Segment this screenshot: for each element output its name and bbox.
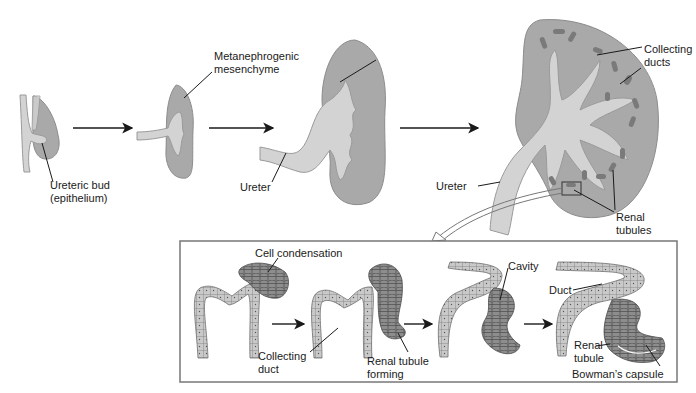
label-ureter-stage3: Ureter (240, 181, 271, 193)
leader-ureter-stage4 (478, 182, 500, 186)
label-renal-tubule-forming-1: Renal tubule (367, 355, 429, 367)
label-ducts-text: ducts (644, 56, 671, 68)
label-renal-tubule-1: Renal (574, 339, 603, 351)
label-renal-tubule-2: tubule (574, 352, 604, 364)
label-ureteric-bud: Ureteric bud (50, 179, 110, 191)
label-tubules: tubules (616, 224, 652, 236)
stage-1-ureteric-bud (20, 95, 59, 172)
label-renal-tubule-forming-2: forming (367, 368, 404, 380)
label-epithelium: (epithelium) (50, 192, 107, 204)
label-collecting-duct-1: Collecting (258, 350, 306, 362)
label-metanephrogenic: Metanephrogenic (214, 50, 300, 62)
label-renal: Renal (616, 211, 645, 223)
label-collecting-duct-2: duct (258, 363, 279, 375)
label-bowmans-capsule: Bowman’s capsule (572, 368, 664, 380)
kidney-development-diagram: Ureteric bud (epithelium) Metanephrogeni… (0, 0, 696, 393)
label-ureter-stage4: Ureter (436, 180, 467, 192)
stage-2-mesenchyme (137, 85, 193, 178)
leader-metanephrogenic (184, 72, 212, 98)
label-cell-condensation: Cell condensation (255, 247, 342, 259)
stage-4-kidney (490, 20, 658, 235)
label-collecting: Collecting (644, 43, 692, 55)
label-duct: Duct (549, 284, 572, 296)
label-cavity: Cavity (508, 260, 539, 272)
label-mesenchyme: mesenchyme (214, 63, 279, 75)
